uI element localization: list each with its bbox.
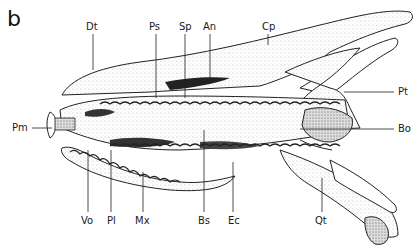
label-angular: An [203, 22, 216, 32]
label-pterygoid: Pt [398, 87, 408, 97]
label-splenial: Sp [179, 22, 192, 32]
label-quadrate: Qt [315, 216, 327, 226]
skull-illustration [0, 0, 419, 251]
label-basioccipital: Bo [398, 124, 411, 134]
label-maxilla: Mx [135, 216, 150, 226]
label-palatine: Pl [107, 216, 116, 226]
label-compound: Cp [262, 22, 275, 32]
label-vomer: Vo [81, 216, 93, 226]
label-parasphenoid: Ps [149, 22, 160, 32]
label-dentary: Dt [86, 22, 98, 32]
label-basisphenoid: Bs [198, 216, 210, 226]
label-ectopterygoid: Ec [228, 216, 240, 226]
skull-figure: b [0, 0, 419, 251]
label-premaxilla: Pm [12, 123, 28, 133]
